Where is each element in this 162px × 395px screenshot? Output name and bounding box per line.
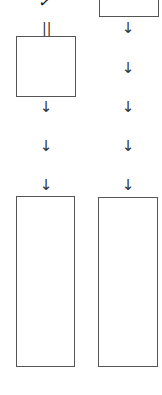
check-mark-icon: ✓ xyxy=(38,0,52,10)
left-top-box xyxy=(16,36,76,97)
right-arrow-2: ↓ xyxy=(121,61,135,76)
parallel-connector: || xyxy=(42,21,51,35)
left-arrow-3: ↓ xyxy=(39,178,53,193)
right-arrow-4: ↓ xyxy=(121,139,135,154)
right-arrow-5: ↓ xyxy=(121,178,135,193)
left-arrow-1: ↓ xyxy=(39,100,53,115)
right-bottom-box xyxy=(98,197,158,367)
left-bottom-box xyxy=(16,196,75,367)
right-top-box xyxy=(99,0,159,17)
left-arrow-2: ↓ xyxy=(39,139,53,154)
right-arrow-3: ↓ xyxy=(121,100,135,115)
right-arrow-1: ↓ xyxy=(121,21,135,36)
